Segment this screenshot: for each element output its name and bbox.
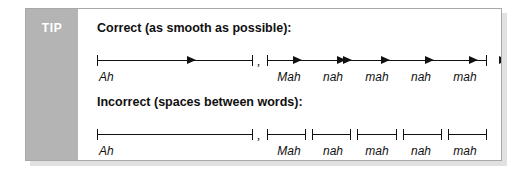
- ruler-mah-nah-group: Mahnahmahnahmah: [267, 125, 487, 143]
- arrowhead: [469, 56, 478, 64]
- arrowhead: [499, 56, 502, 64]
- word-label: nah: [399, 144, 443, 158]
- tick-start: [312, 129, 313, 140]
- arrowhead: [381, 56, 390, 64]
- tip-card: TIP Correct (as smooth as possible): Ah,…: [25, 8, 502, 161]
- ruler-line: [312, 134, 351, 135]
- arrowhead: [337, 56, 346, 64]
- arrowhead: [425, 56, 434, 64]
- ruler-mah-nah-group: Mahnahmahnahmah: [267, 51, 487, 69]
- word-label: mah: [355, 70, 399, 84]
- word-label: mah: [443, 144, 487, 158]
- word-label: mah: [355, 144, 399, 158]
- word-label: nah: [311, 144, 355, 158]
- ruler-ah-group: Ah: [97, 51, 253, 69]
- ruler-line: [97, 134, 253, 135]
- ruler-line: [403, 134, 442, 135]
- tick-start: [357, 129, 358, 140]
- tick-start: [97, 129, 98, 140]
- tick-start: [267, 55, 268, 66]
- tip-label: TIP: [26, 21, 78, 35]
- tip-card-body: Correct (as smooth as possible): Ah,Mahn…: [78, 9, 501, 160]
- arrowhead: [293, 56, 302, 64]
- word-label: nah: [399, 70, 443, 84]
- tick-end: [396, 129, 397, 140]
- tick-end: [252, 55, 253, 66]
- tick-start: [448, 129, 449, 140]
- tick-end: [252, 129, 253, 140]
- word-label: mah: [443, 70, 487, 84]
- ruler-line: [267, 134, 306, 135]
- tick-end: [486, 129, 487, 140]
- arrowhead: [187, 56, 196, 64]
- ruler-line: [357, 134, 396, 135]
- tip-figure: TIP Correct (as smooth as possible): Ah,…: [0, 0, 531, 173]
- word-label: Mah: [267, 144, 311, 158]
- tick-end: [350, 129, 351, 140]
- tick-end: [486, 55, 487, 66]
- tick-end: [305, 129, 306, 140]
- tick-start: [403, 129, 404, 140]
- diagram-row-incorrect: Ah,Mahnahmahnahmah: [97, 125, 487, 161]
- ruler-line: [97, 60, 253, 61]
- group-separator-comma: ,: [257, 129, 260, 141]
- ruler-line: [448, 134, 487, 135]
- group-separator-comma: ,: [257, 55, 260, 67]
- tick-end: [441, 129, 442, 140]
- tip-rail: TIP: [26, 9, 78, 160]
- word-label: Ah: [99, 70, 255, 84]
- tick-start: [97, 55, 98, 66]
- word-label: nah: [311, 70, 355, 84]
- word-label: Ah: [99, 144, 255, 158]
- ruler-ah-group: Ah: [97, 125, 253, 143]
- word-label: Mah: [267, 70, 311, 84]
- heading-incorrect: Incorrect (spaces between words):: [97, 95, 303, 109]
- heading-correct: Correct (as smooth as possible):: [97, 21, 292, 35]
- diagram-row-correct: Ah,Mahnahmahnahmah: [97, 51, 487, 91]
- tick-start: [267, 129, 268, 140]
